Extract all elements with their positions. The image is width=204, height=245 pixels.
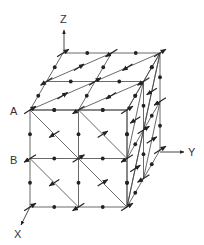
lattice-point — [101, 205, 105, 209]
spin-arrow — [147, 137, 157, 143]
lattice-point — [150, 65, 154, 69]
spin-arrow — [49, 180, 59, 186]
spin-arrow — [74, 64, 84, 70]
x-axis-label: X — [14, 228, 22, 240]
lattice-point — [52, 205, 56, 209]
lattice-point — [101, 108, 105, 112]
lattice-point — [133, 94, 137, 98]
lattice-point — [69, 80, 73, 84]
lattice-point — [158, 124, 162, 128]
lattice-point — [85, 51, 89, 55]
y-axis: Y — [160, 146, 196, 158]
lattice-point — [53, 65, 57, 69]
lattice-point — [150, 114, 154, 118]
lattice-point — [77, 181, 81, 185]
lattice-point — [142, 104, 146, 108]
lattice-point — [150, 162, 154, 166]
point-label-a: A — [10, 105, 18, 117]
y-axis-label: Y — [188, 146, 196, 158]
lattice-point — [77, 132, 81, 136]
lattice-point — [52, 157, 56, 161]
lattice-point — [101, 65, 105, 69]
z-axis-label: Z — [60, 13, 67, 25]
lattice-point — [85, 94, 89, 98]
lattice-point — [36, 94, 40, 98]
lattice-point — [158, 75, 162, 79]
spin-arrow — [130, 165, 140, 171]
spin-arrow — [57, 93, 67, 99]
spin-arrow — [106, 93, 116, 99]
lattice-point — [125, 181, 129, 185]
spin-arrow — [98, 180, 108, 186]
lattice-point — [133, 142, 137, 146]
lattice-point — [142, 152, 146, 156]
spin-arrow — [147, 88, 157, 94]
lattice-point — [125, 132, 129, 136]
lattice-point — [28, 181, 32, 185]
lattice-grid — [30, 53, 160, 207]
lattice-point — [101, 157, 105, 161]
lattice-point — [117, 80, 121, 84]
lattice-point — [133, 191, 137, 195]
spin-arrows — [24, 49, 166, 211]
z-axis: Z — [60, 13, 67, 53]
lattice-point — [52, 108, 56, 112]
lattice-diagram: Z Y X A B — [0, 0, 204, 245]
point-label-b: B — [10, 154, 17, 166]
x-axis: X — [14, 207, 30, 240]
lattice-point — [28, 132, 32, 136]
lattice-point — [134, 51, 138, 55]
lattice-points — [28, 51, 162, 209]
spin-arrow — [122, 64, 132, 70]
spin-arrow — [130, 117, 140, 123]
spin-arrow — [98, 131, 108, 137]
spin-arrow — [49, 131, 59, 137]
